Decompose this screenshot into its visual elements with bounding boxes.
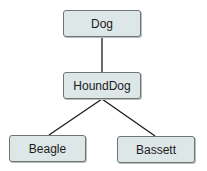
node-label: Dog [91,17,113,31]
edge-hounddog-beagle [49,99,102,135]
node-label: Bassett [136,143,176,157]
node-bassett: Bassett [117,136,195,163]
node-beagle: Beagle [9,135,86,162]
edge-hounddog-bassett [102,99,155,136]
node-hounddog: HoundDog [63,72,141,99]
node-label: Beagle [29,142,66,156]
node-dog: Dog [63,10,141,37]
node-label: HoundDog [73,79,130,93]
